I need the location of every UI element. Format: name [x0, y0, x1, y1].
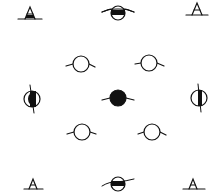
triangle-a-icon: [183, 179, 205, 189]
banded-circle-icon: [102, 6, 134, 20]
vertical-half-circle-icon: [191, 84, 207, 112]
banded-circle-icon: [102, 177, 134, 191]
triangle-a-icon: [186, 3, 208, 15]
filled-circle-icon: [102, 90, 134, 106]
open-circle-icon: [138, 124, 166, 140]
triangle-a-icon: [24, 179, 43, 189]
open-circle-icon: [66, 56, 95, 72]
vertical-half-circle-icon: [24, 85, 40, 113]
open-circle-icon: [135, 55, 164, 71]
symbol-diagram: [0, 0, 221, 195]
diagram-svg: [0, 0, 221, 195]
open-circle-icon: [67, 124, 96, 140]
triangle-a-icon: [18, 7, 42, 19]
